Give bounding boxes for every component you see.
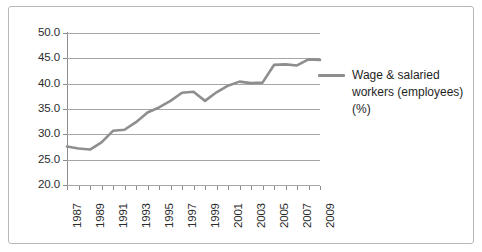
x-axis-tick-mark [79,186,80,190]
x-axis-ticks [67,186,321,191]
x-axis-tick-label: 1987 [71,203,83,228]
x-axis-tick-label: 1995 [163,203,175,228]
y-axis-tick-mark [63,185,67,186]
x-axis-tick-mark [263,186,264,190]
x-axis-tick-mark [182,186,183,190]
x-axis-tick-mark [320,186,321,190]
x-axis-tick-mark [136,186,137,190]
x-axis-tick-mark [171,186,172,190]
x-axis-tick-mark [102,186,103,190]
x-axis-tick-label: 2009 [324,203,336,228]
x-axis-tick-mark [159,186,160,190]
x-axis-tick-label: 1999 [209,203,221,228]
y-axis-tick-label: 25.0 [16,154,60,165]
x-axis-tick-mark [286,186,287,190]
chart-legend: Wage & salaried workers (employees) (%) [318,67,468,118]
y-axis-tick-mark [63,160,67,161]
x-axis-tick-mark [251,186,252,190]
x-axis-tick-mark [205,186,206,190]
legend-line-swatch [318,74,345,77]
x-axis-tick-label: 2005 [278,203,290,228]
y-axis-tick-label: 50.0 [16,27,60,38]
x-axis-tick-mark [274,186,275,190]
x-axis-tick-mark [90,186,91,190]
line-series-svg [67,33,320,185]
x-axis-tick-label: 1989 [94,203,106,228]
x-axis-tick-label: 2003 [255,203,267,228]
x-axis-tick-label: 2007 [301,203,313,228]
y-axis-tick-label: 35.0 [16,103,60,114]
x-axis-tick-mark [125,186,126,190]
y-axis-tick-label: 45.0 [16,52,60,63]
y-axis-tick-label: 40.0 [16,78,60,89]
x-axis-tick-label: 1993 [140,203,152,228]
legend-label: Wage & salaried workers (employees) (%) [352,67,468,118]
x-axis-tick-mark [217,186,218,190]
y-axis-tick-label: 20.0 [16,179,60,190]
y-axis-tick-mark [63,58,67,59]
chart-container: 50.045.040.035.030.025.020.0 19871989199… [0,0,482,252]
x-axis-tick-mark [67,186,68,190]
x-axis-tick-label: 2001 [232,203,244,228]
y-axis-tick-label: 30.0 [16,128,60,139]
x-axis-tick-mark [148,186,149,190]
x-axis-labels: 1987198919911993199519971999200120032005… [67,192,327,240]
y-axis-tick-mark [63,134,67,135]
x-axis-tick-mark [309,186,310,190]
x-axis-tick-label: 1991 [117,203,129,228]
y-axis-tick-mark [63,84,67,85]
x-axis-tick-mark [113,186,114,190]
x-axis-tick-mark [228,186,229,190]
y-axis-labels: 50.045.040.035.030.025.020.0 [12,0,60,252]
series-line-wage-salaried-workers [67,59,320,149]
y-axis-tick-mark [63,109,67,110]
x-axis-tick-label: 1997 [186,203,198,228]
x-axis-tick-mark [297,186,298,190]
y-axis-tick-mark [63,33,67,34]
x-axis-tick-mark [194,186,195,190]
x-axis-tick-mark [240,186,241,190]
